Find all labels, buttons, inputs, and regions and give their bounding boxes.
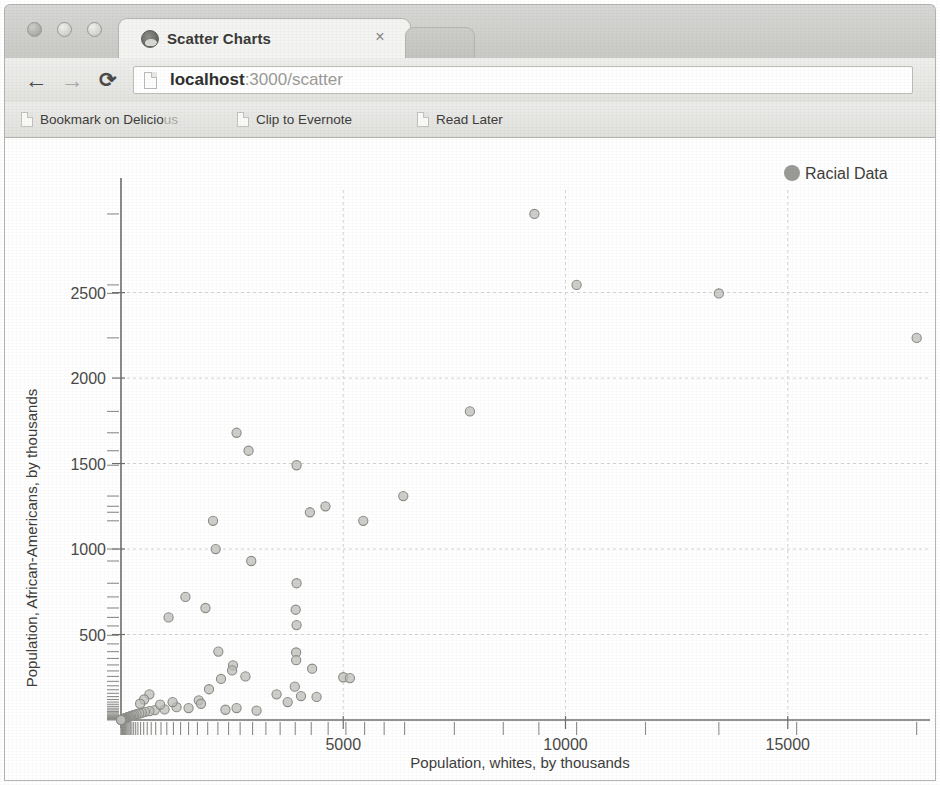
- data-point[interactable]: [465, 407, 474, 416]
- legend-label: Racial Data: [805, 165, 888, 182]
- data-point[interactable]: [196, 699, 205, 708]
- x-axis-title: Population, whites, by thousands: [410, 754, 629, 771]
- page-content: 500100015002000250050001000015000 Popula…: [4, 138, 936, 781]
- tab-title: Scatter Charts: [167, 30, 271, 47]
- back-arrow-icon[interactable]: ←: [23, 67, 49, 93]
- globe-icon: [141, 30, 159, 48]
- window-close-button[interactable]: [27, 22, 42, 37]
- grid-lines: [121, 190, 930, 720]
- data-point[interactable]: [201, 603, 210, 612]
- data-point[interactable]: [181, 592, 190, 601]
- data-point[interactable]: [184, 703, 193, 712]
- data-point[interactable]: [308, 664, 317, 673]
- address-bar-url: localhost:3000/scatter: [170, 70, 343, 90]
- tab-scatter-charts[interactable]: Scatter Charts ×: [118, 18, 411, 59]
- data-point[interactable]: [272, 690, 281, 699]
- data-point[interactable]: [232, 703, 241, 712]
- axis-ticks: [112, 293, 788, 729]
- data-point[interactable]: [572, 280, 581, 289]
- data-point[interactable]: [241, 672, 250, 681]
- navigation-toolbar: ← → ⟳ localhost:3000/scatter: [4, 58, 936, 102]
- y-tick-label: 500: [79, 627, 106, 644]
- data-point[interactable]: [530, 209, 539, 218]
- x-tick-label: 10000: [543, 736, 588, 753]
- data-point[interactable]: [912, 333, 921, 342]
- y-tick-label: 1000: [70, 541, 106, 558]
- reload-icon[interactable]: ⟳: [95, 67, 121, 93]
- bookmark-label: Bookmark on Delicio: [40, 112, 164, 127]
- data-point[interactable]: [204, 685, 213, 694]
- y-tick-label: 1500: [70, 456, 106, 473]
- page-icon: [144, 72, 157, 89]
- data-point[interactable]: [305, 508, 314, 517]
- data-point[interactable]: [296, 691, 305, 700]
- y-axis-title: Population, African-Americans, by thousa…: [23, 389, 40, 688]
- scatter-chart-svg: 500100015002000250050001000015000 Popula…: [5, 138, 935, 779]
- data-point[interactable]: [312, 692, 321, 701]
- data-point[interactable]: [208, 516, 217, 525]
- data-point[interactable]: [247, 556, 256, 565]
- axis-tick-labels: 500100015002000250050001000015000: [70, 285, 810, 753]
- scatter-chart: 500100015002000250050001000015000 Popula…: [5, 138, 935, 779]
- data-point[interactable]: [283, 697, 292, 706]
- bookmark-delicious[interactable]: Bookmark on Delicious: [21, 110, 178, 130]
- data-point[interactable]: [292, 579, 301, 588]
- address-bar[interactable]: localhost:3000/scatter: [133, 66, 913, 94]
- close-icon[interactable]: ×: [372, 29, 388, 45]
- data-point[interactable]: [244, 446, 253, 455]
- data-point[interactable]: [116, 715, 125, 724]
- bookmark-read-later[interactable]: Read Later: [417, 110, 503, 130]
- data-point[interactable]: [228, 666, 237, 675]
- data-point[interactable]: [359, 516, 368, 525]
- x-tick-label: 5000: [325, 736, 361, 753]
- forward-arrow-icon[interactable]: →: [59, 67, 85, 93]
- data-point[interactable]: [211, 544, 220, 553]
- data-point[interactable]: [252, 706, 261, 715]
- browser-window: Scatter Charts × ← → ⟳ localhost:3000/sc…: [0, 0, 940, 785]
- data-point[interactable]: [292, 656, 301, 665]
- y-tick-label: 2000: [70, 370, 106, 387]
- page-icon: [21, 112, 33, 127]
- bookmark-label-truncated: us: [164, 112, 178, 127]
- window-maximize-button[interactable]: [87, 22, 102, 37]
- data-point[interactable]: [136, 699, 145, 708]
- axis-lines: [117, 178, 930, 728]
- data-point[interactable]: [168, 697, 177, 706]
- data-point[interactable]: [291, 605, 300, 614]
- data-point[interactable]: [290, 682, 299, 691]
- y-tick-label: 2500: [70, 285, 106, 302]
- legend-marker-icon: [784, 165, 800, 181]
- bookmark-label: Read Later: [436, 112, 503, 127]
- x-tick-label: 15000: [766, 736, 811, 753]
- data-point[interactable]: [714, 289, 723, 298]
- bookmark-label: Clip to Evernote: [256, 112, 352, 127]
- window-minimize-button[interactable]: [57, 22, 72, 37]
- page-icon: [417, 112, 429, 127]
- data-point[interactable]: [232, 428, 241, 437]
- tab-background[interactable]: [405, 27, 475, 59]
- bookmark-evernote[interactable]: Clip to Evernote: [237, 110, 352, 130]
- data-point[interactable]: [321, 502, 330, 511]
- data-point[interactable]: [345, 674, 354, 683]
- data-point[interactable]: [292, 621, 301, 630]
- data-point[interactable]: [164, 613, 173, 622]
- data-point[interactable]: [221, 705, 230, 714]
- data-point[interactable]: [216, 674, 225, 683]
- bookmarks-bar: Bookmark on Delicious Clip to Evernote R…: [4, 102, 936, 138]
- url-host: localhost: [170, 70, 245, 89]
- data-point[interactable]: [399, 491, 408, 500]
- data-points[interactable]: [116, 209, 921, 724]
- data-point[interactable]: [214, 647, 223, 656]
- url-path: :3000/scatter: [245, 70, 343, 89]
- data-point[interactable]: [156, 700, 165, 709]
- data-point[interactable]: [292, 461, 301, 470]
- chart-legend[interactable]: Racial Data: [784, 165, 888, 182]
- tab-strip: Scatter Charts ×: [4, 4, 936, 58]
- page-icon: [237, 112, 249, 127]
